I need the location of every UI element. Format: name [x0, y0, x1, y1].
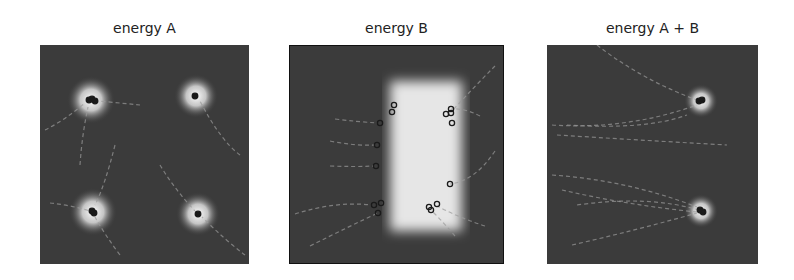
energy-region [390, 81, 462, 231]
trajectory-line [335, 119, 378, 123]
trajectory-line [552, 105, 697, 126]
agent-marker [91, 210, 97, 216]
trajectory-line [577, 201, 699, 210]
agent-marker [92, 98, 98, 104]
agent-marker [699, 97, 705, 103]
trajectory-line [557, 135, 727, 145]
heatmap-canvas [547, 45, 758, 264]
agent-marker [375, 210, 380, 215]
heatmap-energy-a [40, 45, 249, 264]
trajectory-line [202, 217, 245, 255]
heatmap-energy-a-plus-b [547, 45, 758, 264]
agent-marker [377, 120, 382, 125]
agent-marker [371, 202, 376, 207]
trajectory-line [295, 204, 372, 214]
agent-marker [700, 209, 706, 215]
agent-marker [374, 142, 379, 147]
agent-marker [378, 200, 383, 205]
heatmap-canvas [40, 45, 249, 264]
trajectory-line [567, 115, 687, 126]
heatmap-energy-b [289, 45, 504, 264]
trajectory-line [330, 166, 374, 167]
trajectory-line [310, 213, 378, 246]
panel-title-energy-b: energy B [289, 20, 504, 36]
panel-title-energy-a: energy A [40, 20, 249, 36]
trajectory-line [597, 45, 697, 100]
panel-title-energy-a-plus-b: energy A + B [547, 20, 758, 36]
agent-marker [192, 93, 198, 99]
trajectory-line [572, 213, 697, 245]
trajectory-line [330, 141, 375, 145]
heatmap-canvas [290, 46, 503, 263]
agent-marker [373, 163, 378, 168]
agent-marker [195, 211, 201, 217]
